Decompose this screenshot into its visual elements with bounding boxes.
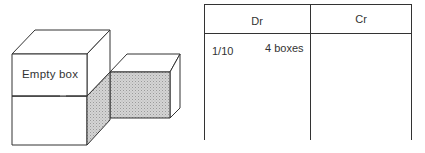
empty-box-label: Empty box xyxy=(22,68,78,80)
bottom-box-front-face xyxy=(12,96,87,145)
right-box-front-face xyxy=(110,72,170,118)
right-box-top-face xyxy=(110,54,180,72)
t-account-ledger: Dr Cr 1/10 4 boxes xyxy=(204,4,412,140)
entry-description: 4 boxes xyxy=(265,42,304,54)
ledger-right-border xyxy=(411,4,412,140)
ledger-header-divider xyxy=(204,33,412,34)
credit-column-header: Cr xyxy=(311,13,411,25)
entry-date: 1/10 xyxy=(212,45,233,57)
ledger-top-border xyxy=(204,4,412,5)
debit-column-header: Dr xyxy=(207,15,307,27)
box-diagram: Empty box xyxy=(0,0,190,153)
ledger-left-border xyxy=(204,4,205,140)
